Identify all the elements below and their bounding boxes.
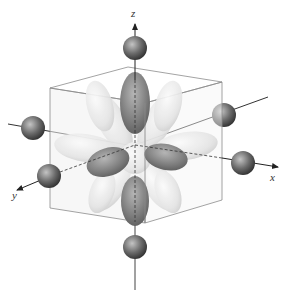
ligand-sphere-neg-z: [123, 235, 147, 259]
ligand-sphere-pos-y: [37, 164, 61, 188]
z-axis-label: z: [131, 8, 135, 19]
y-axis-label: y: [12, 190, 17, 201]
x-axis-label: x: [270, 172, 275, 183]
ligand-sphere-neg-x: [21, 116, 45, 140]
ligand-sphere-pos-x: [231, 151, 255, 175]
ligand-sphere-pos-z: [123, 36, 147, 60]
orbital-diagram: z y x: [0, 0, 289, 293]
